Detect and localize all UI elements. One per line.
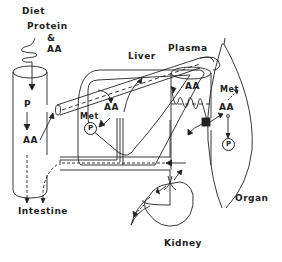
amino-acid-metabolism-diagram: Diet Protein & AA Liver Plasma P AA Inte… <box>0 0 282 262</box>
label-plasma: Plasma <box>168 44 208 53</box>
label-plasma-aa: AA <box>185 82 200 91</box>
organ-outline <box>208 38 253 208</box>
label-intestine-aa: AA <box>23 136 38 145</box>
label-liver-met: Met <box>80 113 99 121</box>
kidney-shape <box>131 170 193 226</box>
label-kidney: Kidney <box>164 239 202 248</box>
transporter-box <box>202 118 210 126</box>
label-ampersand: & <box>47 34 55 43</box>
diet-wavy-line <box>22 38 37 88</box>
label-organ-met: Met <box>220 86 239 94</box>
label-organ-aa: AA <box>219 103 234 112</box>
diagram-drawing <box>0 0 282 262</box>
plasma-wavy-line <box>172 92 207 120</box>
organ-protein-circle: P <box>222 138 235 151</box>
label-organ: Organ <box>235 194 269 203</box>
label-diet-aa: AA <box>47 45 62 54</box>
label-protein: Protein <box>27 22 68 31</box>
label-intestine-p: P <box>24 100 31 109</box>
label-intestine: Intestine <box>18 207 68 216</box>
label-diet: Diet <box>22 7 45 16</box>
label-liver-aa: AA <box>104 103 119 112</box>
intestine-aa-to-portal-arrow <box>40 116 52 140</box>
liver-protein-circle: P <box>84 122 97 135</box>
label-liver: Liver <box>128 52 156 61</box>
